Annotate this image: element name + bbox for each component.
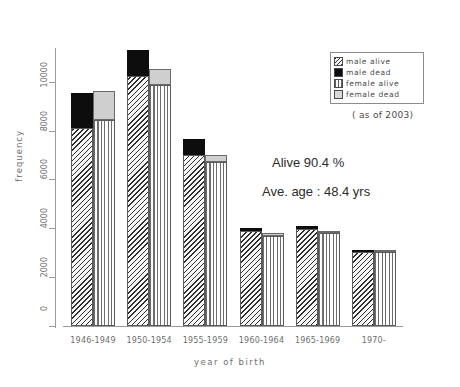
bar-segment-female-alive [149,85,171,326]
legend-label: female alive [346,79,399,88]
y-axis-tick-label: 6000 [40,159,49,179]
bar-segment-male-alive [240,231,262,326]
bar-segment-male-dead [127,50,149,76]
bar-segment-male-alive [296,229,318,326]
bar-segment-male-dead [71,93,93,128]
bar-female [262,233,284,326]
bar-segment-female-dead [262,233,284,235]
legend-swatch-male-dead-icon [334,68,343,77]
bar-segment-male-dead [296,226,318,229]
x-axis-line [63,326,403,327]
y-axis-title: frequency [14,130,24,182]
bar-male [71,93,93,326]
annotation-alive-rate: Alive 90.4 % [272,155,344,170]
y-axis-tick [49,326,55,327]
bar-segment-female-dead [374,250,396,252]
bar-segment-male-dead [240,228,262,232]
y-axis-tick [49,131,55,132]
bar-male [183,139,205,326]
bar-male [240,228,262,326]
bar-male [127,50,149,326]
x-axis-title: year of birth [0,357,460,367]
bar-female [93,91,115,326]
bar-segment-female-alive [374,252,396,326]
legend-item: female dead [334,89,419,100]
y-axis-tick [49,228,55,229]
bar-segment-female-alive [205,162,227,326]
bar-segment-female-alive [262,236,284,326]
y-axis-line [55,48,56,328]
y-axis-tick-label: 10000 [40,62,49,87]
bar-female [205,155,227,326]
bar-female [149,69,171,326]
annotation-average-age: Ave. age : 48.4 yrs [262,184,370,199]
x-axis-tick-label: 1965-1969 [288,336,348,345]
legend-label: male dead [346,68,391,77]
bar-female [318,231,340,326]
x-axis-tick-label: 1950-1954 [119,336,179,345]
bar-female [374,252,396,326]
bar-segment-male-alive [127,76,149,326]
bar-segment-female-alive [318,233,340,326]
bar-segment-male-alive [71,128,93,326]
chart-legend: male alive male dead female alive female… [330,52,424,104]
legend-label: male alive [346,57,391,66]
bar-segment-female-dead [149,69,171,85]
bar-male [296,226,318,326]
bar-segment-female-alive [93,120,115,326]
x-axis-tick-label: 1970- [344,336,404,345]
bar-segment-female-dead [205,155,227,162]
bar-segment-male-alive [183,155,205,326]
legend-item: female alive [334,78,419,89]
legend-note: ( as of 2003) [352,110,413,120]
x-axis-tick-label: 1955-1959 [175,336,235,345]
bar-segment-male-alive [352,252,374,326]
y-axis-tick-label: 0 [40,306,49,311]
y-axis-tick [49,179,55,180]
x-axis-tick-label: 1946-1949 [63,336,123,345]
bar-segment-female-dead [318,231,340,233]
legend-swatch-female-alive-icon [334,79,343,88]
bar-male [352,251,374,326]
legend-swatch-female-dead-icon [334,90,343,99]
legend-item: male alive [334,56,419,67]
y-axis-tick [49,82,55,83]
chart-container: frequency year of birth 0200040006000800… [0,0,460,387]
legend-label: female dead [346,90,400,99]
legend-item: male dead [334,67,419,78]
y-axis-tick [49,277,55,278]
bar-segment-female-dead [93,91,115,119]
bar-segment-male-dead [352,250,374,252]
y-axis-tick-label: 4000 [40,208,49,228]
y-axis-tick-label: 8000 [40,111,49,131]
x-axis-tick-label: 1960-1964 [232,336,292,345]
bar-segment-male-dead [183,139,205,155]
legend-swatch-male-alive-icon [334,57,343,66]
y-axis-tick-label: 2000 [40,257,49,277]
